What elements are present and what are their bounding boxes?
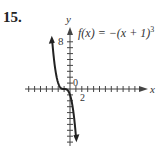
x-axis [25,86,148,92]
curve-arrow-down-icon [73,134,79,142]
y-axis-label: y [65,13,71,25]
y-tick-label-8: 8 [58,35,64,47]
function-label-text: f(x) = −(x + 1) [78,26,150,40]
x-axis-label: x [149,83,155,95]
y-axis-arrow-icon [67,27,73,35]
curve-arrow-up-icon [49,36,55,44]
function-label-exponent: 3 [150,25,154,34]
function-label: f(x) = −(x + 1)3 [78,25,154,40]
origin-label: 0 [73,77,78,88]
x-axis-arrow-icon [139,86,148,92]
graph: y x 8 0 2 f(x) = −(x + 1)3 [0,0,158,156]
x-tick-label-2: 2 [80,92,85,103]
